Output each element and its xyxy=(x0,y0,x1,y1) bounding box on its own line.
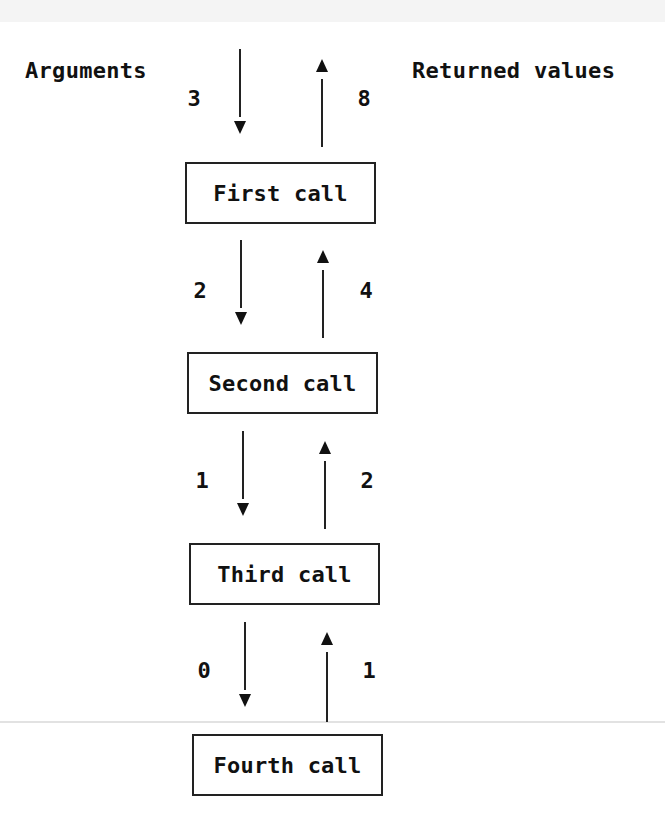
return-arrow-line xyxy=(321,79,323,147)
return-arrow-line xyxy=(322,270,324,338)
return-value: 8 xyxy=(354,88,374,110)
return-arrow-line xyxy=(326,652,328,722)
argument-arrow-line xyxy=(239,49,241,117)
arrow-down-icon xyxy=(237,503,249,516)
call-label: Third call xyxy=(217,562,351,587)
third-call-box: Third call xyxy=(189,543,380,605)
first-call-box: First call xyxy=(185,162,376,224)
arrow-up-icon xyxy=(319,441,331,454)
return-arrow-line xyxy=(324,461,326,529)
argument-value: 2 xyxy=(190,280,210,302)
arrow-up-icon xyxy=(321,632,333,645)
divider xyxy=(0,721,665,723)
argument-value: 1 xyxy=(192,470,212,492)
argument-value: 0 xyxy=(194,660,214,682)
argument-value: 3 xyxy=(184,88,204,110)
call-label: Second call xyxy=(209,371,357,396)
return-value: 4 xyxy=(356,280,376,302)
call-label: Fourth call xyxy=(214,753,362,778)
arguments-heading: Arguments xyxy=(25,60,147,82)
returned-values-heading: Returned values xyxy=(412,60,615,82)
arrow-down-icon xyxy=(235,312,247,325)
arrow-down-icon xyxy=(234,121,246,134)
arrow-up-icon xyxy=(317,250,329,263)
argument-arrow-line xyxy=(244,622,246,690)
return-value: 2 xyxy=(357,470,377,492)
second-call-box: Second call xyxy=(187,352,378,414)
fourth-call-box: Fourth call xyxy=(192,734,383,796)
arrow-up-icon xyxy=(316,59,328,72)
top-band xyxy=(0,0,665,22)
call-label: First call xyxy=(213,181,347,206)
argument-arrow-line xyxy=(240,240,242,308)
return-value: 1 xyxy=(359,660,379,682)
argument-arrow-line xyxy=(242,431,244,499)
arrow-down-icon xyxy=(239,694,251,707)
